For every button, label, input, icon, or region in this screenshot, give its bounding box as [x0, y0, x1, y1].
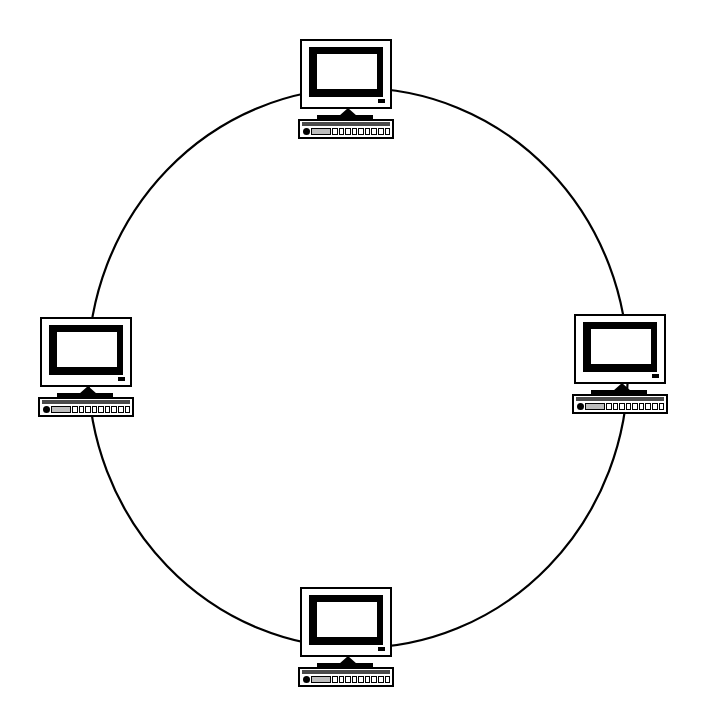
keyboard-key-row	[577, 403, 664, 410]
keyboard-key	[365, 676, 371, 683]
screen-bezel	[49, 325, 123, 375]
keyboard-key	[385, 676, 391, 683]
keyboard-key	[85, 406, 91, 413]
keyboard-key	[358, 676, 364, 683]
keyboard-top-strip	[302, 122, 390, 126]
screen-bezel	[309, 595, 383, 645]
power-led-indicator	[118, 377, 125, 381]
keyboard-key	[339, 676, 345, 683]
ring-topology-diagram	[0, 0, 704, 720]
screen-bezel	[309, 47, 383, 97]
keyboard-function-keys	[311, 676, 331, 683]
screen-display	[57, 332, 117, 367]
monitor-case	[574, 314, 666, 384]
keyboard-key	[105, 406, 111, 413]
keyboard-key-row	[43, 406, 130, 413]
screen-display	[317, 54, 377, 89]
keyboard-key	[385, 128, 391, 135]
keyboard-top-strip	[302, 670, 390, 674]
keyboard-function-keys	[585, 403, 605, 410]
ring-circle-path	[88, 88, 628, 648]
keyboard-top-strip	[42, 400, 130, 404]
keyboard-key	[652, 403, 658, 410]
computer-node-right[interactable]	[572, 314, 672, 416]
keyboard	[298, 119, 394, 139]
monitor-case	[40, 317, 132, 387]
trackball-dot	[577, 403, 584, 410]
keyboard-key	[98, 406, 104, 413]
keyboard-key	[613, 403, 619, 410]
keyboard	[572, 394, 668, 414]
keyboard-key	[606, 403, 612, 410]
keyboard-key	[339, 128, 345, 135]
keyboard-key	[626, 403, 632, 410]
keyboard-key	[365, 128, 371, 135]
keyboard-key	[371, 676, 377, 683]
keyboard-key	[639, 403, 645, 410]
keyboard-key	[345, 128, 351, 135]
screen-bezel	[583, 322, 657, 372]
keyboard-key	[371, 128, 377, 135]
keyboard-key	[92, 406, 98, 413]
keyboard-key	[645, 403, 651, 410]
keyboard	[38, 397, 134, 417]
trackball-dot	[43, 406, 50, 413]
trackball-dot	[303, 128, 310, 135]
keyboard	[298, 667, 394, 687]
keyboard-key	[332, 128, 338, 135]
keyboard-key	[352, 128, 358, 135]
keyboard-key	[619, 403, 625, 410]
keyboard-key	[632, 403, 638, 410]
power-led-indicator	[652, 374, 659, 378]
keyboard-key	[378, 128, 384, 135]
power-led-indicator	[378, 647, 385, 651]
keyboard-top-strip	[576, 397, 664, 401]
keyboard-key-row	[303, 676, 390, 683]
monitor-case	[300, 39, 392, 109]
keyboard-key	[332, 676, 338, 683]
computer-node-left[interactable]	[38, 317, 138, 419]
keyboard-key	[345, 676, 351, 683]
power-led-indicator	[378, 99, 385, 103]
keyboard-key-row	[303, 128, 390, 135]
monitor-case	[300, 587, 392, 657]
keyboard-key	[72, 406, 78, 413]
screen-display	[591, 329, 651, 364]
keyboard-key	[125, 406, 131, 413]
keyboard-key	[378, 676, 384, 683]
keyboard-key	[659, 403, 665, 410]
computer-node-top[interactable]	[298, 39, 398, 141]
keyboard-key	[111, 406, 117, 413]
trackball-dot	[303, 676, 310, 683]
keyboard-function-keys	[51, 406, 71, 413]
keyboard-key	[352, 676, 358, 683]
keyboard-key	[358, 128, 364, 135]
computer-node-bottom[interactable]	[298, 587, 398, 689]
keyboard-key	[118, 406, 124, 413]
keyboard-function-keys	[311, 128, 331, 135]
screen-display	[317, 602, 377, 637]
keyboard-key	[79, 406, 85, 413]
